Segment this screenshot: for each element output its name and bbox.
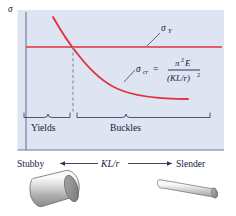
denominator-term: (KL/r): [167, 73, 190, 83]
slender-rod: [157, 180, 217, 199]
x-axis-left-label: Stubby: [17, 158, 44, 169]
x-axis-right-label: Slender: [176, 158, 206, 169]
numerator-modulus: E: [184, 58, 191, 68]
x-axis-label: KL/r: [100, 158, 119, 169]
denominator-exponent: 2: [197, 71, 200, 78]
yield-stress-label: σ: [161, 23, 166, 33]
critical-stress-label-subscript: cr: [143, 68, 149, 75]
critical-stress-label: σ: [136, 64, 141, 74]
left-arrowhead-icon: [60, 161, 65, 165]
stubby-cylinder: [30, 170, 81, 206]
region-label-buckles: Buckles: [110, 122, 141, 133]
equals-sign: =: [153, 63, 158, 74]
numerator-pi: π: [175, 58, 180, 68]
region-label-yields: Yields: [31, 122, 56, 133]
column-buckling-figure: σ σ Y σ cr = π 2 E (KL/r) 2 Yields Buckl…: [0, 0, 236, 216]
slenderness-axis-row: Stubby KL/r Slender: [17, 158, 206, 169]
right-arrowhead-icon: [167, 161, 172, 165]
y-axis-label: σ: [8, 4, 13, 14]
numerator-pi-exponent: 2: [181, 56, 184, 63]
